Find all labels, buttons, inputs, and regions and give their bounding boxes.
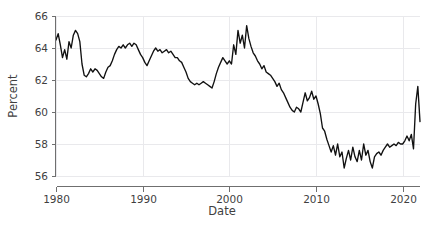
- y-tick-label-56: 56: [35, 170, 49, 182]
- y-tick-label-60: 60: [35, 106, 48, 118]
- x-axis-title: Date: [208, 204, 236, 218]
- x-tick-label-1980: 1980: [43, 193, 70, 205]
- x-tick-label-1990: 1990: [130, 193, 157, 205]
- x-tick-label-2010: 2010: [303, 193, 330, 205]
- y-tick-label-58: 58: [35, 138, 48, 150]
- y-tick-label-64: 64: [35, 42, 49, 54]
- chart-canvas: 565860626466 19801990200020102020 Percen…: [0, 0, 429, 226]
- y-tick-label-62: 62: [35, 74, 48, 86]
- y-tick-label-66: 66: [35, 10, 49, 22]
- x-tick-label-2020: 2020: [390, 193, 417, 205]
- line-chart: 565860626466 19801990200020102020 Percen…: [0, 0, 429, 226]
- y-axis-title: Percent: [6, 74, 20, 118]
